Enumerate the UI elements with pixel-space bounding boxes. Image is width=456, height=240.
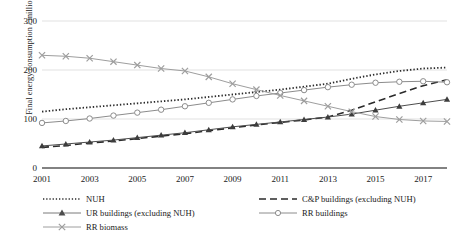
x-axis-tick-label: 2005 — [128, 174, 147, 184]
cross-marker-key — [42, 222, 82, 232]
series-marker — [373, 80, 378, 85]
legend-label-cp-buildings: C&P buildings (excluding NUH) — [302, 194, 416, 204]
legend-label-rr-buildings: RR buildings — [302, 208, 348, 218]
series-marker — [397, 79, 402, 84]
x-axis-tick-label: 2011 — [271, 174, 289, 184]
y-axis-tick-label: 0 — [33, 163, 38, 173]
series-marker — [87, 116, 92, 121]
x-axis-tick-label: 2001 — [33, 174, 51, 184]
y-axis-tick-label: 100 — [24, 114, 38, 124]
x-axis-tick-label: 2007 — [176, 174, 195, 184]
series-marker — [111, 113, 116, 118]
series-marker — [325, 84, 330, 89]
legend-label-ur-buildings: UR buildings (excluding NUH) — [86, 208, 195, 218]
legend-item-cp-buildings[interactable]: C&P buildings (excluding NUH) — [258, 194, 416, 204]
series-line — [42, 99, 447, 146]
legend-item-ur-buildings[interactable]: UR buildings (excluding NUH) — [42, 208, 195, 218]
x-axis-tick-label: 2003 — [81, 174, 100, 184]
y-axis-tick-label: 200 — [24, 65, 38, 75]
y-axis-tick-label: 300 — [24, 16, 38, 26]
series-marker — [301, 87, 306, 92]
x-axis-tick-label: 2013 — [319, 174, 338, 184]
series-line — [42, 55, 447, 121]
series-marker — [39, 120, 44, 125]
x-axis-tick-label: 2015 — [367, 174, 386, 184]
dashed-line-key — [258, 194, 298, 204]
circle-marker-key — [258, 208, 298, 218]
series-marker — [135, 110, 140, 115]
x-axis-tick-label: 2017 — [414, 174, 433, 184]
legend-item-rr-biomass[interactable]: RR biomass — [42, 222, 128, 232]
series-marker — [230, 97, 235, 102]
series-marker — [206, 100, 211, 105]
series-marker — [254, 93, 259, 98]
triangle-marker-key — [42, 208, 82, 218]
legend-item-nuh[interactable]: NUH — [42, 194, 105, 204]
series-marker — [229, 81, 235, 87]
series-marker — [63, 118, 68, 123]
series-marker — [349, 82, 354, 87]
series-marker — [182, 104, 187, 109]
series-marker — [420, 79, 425, 84]
chart-legend: NUH UR buildings (excluding NUH) RR biom… — [0, 188, 456, 240]
legend-label-nuh: NUH — [86, 194, 105, 204]
legend-label-rr-biomass: RR biomass — [86, 222, 128, 232]
series-marker — [444, 96, 450, 102]
series-line — [42, 80, 447, 148]
series-line — [42, 68, 447, 112]
series-marker — [444, 80, 449, 85]
series-line — [42, 81, 447, 123]
series-marker — [158, 107, 163, 112]
dotted-line-key — [42, 194, 82, 204]
legend-item-rr-buildings[interactable]: RR buildings — [258, 208, 348, 218]
chart-container: Final energy consumption / million TCE 0… — [0, 0, 456, 240]
line-chart-plot: 0100200300200120032005200720092011201320… — [0, 0, 456, 190]
series-marker — [206, 74, 212, 80]
x-axis-tick-label: 2009 — [224, 174, 243, 184]
